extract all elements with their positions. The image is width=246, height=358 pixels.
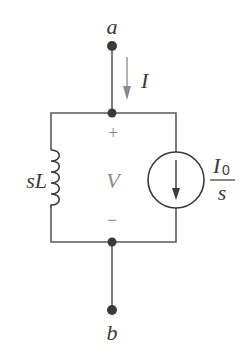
source-denominator: s xyxy=(218,180,227,205)
source-numerator: I xyxy=(212,153,222,178)
current-label: I xyxy=(140,68,150,93)
inductor-icon xyxy=(51,150,59,208)
voltage-label: V xyxy=(106,168,122,193)
current-arrow-icon xyxy=(123,57,131,100)
terminal-b-label: b xyxy=(107,320,118,345)
current-source-icon xyxy=(148,152,204,208)
voltage-plus-sign: + xyxy=(108,123,118,143)
terminal-a-node xyxy=(107,41,117,51)
top-junction-node xyxy=(108,109,117,118)
inductor-label: sL xyxy=(26,168,47,193)
terminal-b-node xyxy=(107,305,117,315)
voltage-minus-sign: − xyxy=(107,210,117,230)
circuit-diagram: a b I + V − sL I 0 s xyxy=(0,0,246,358)
terminal-a-label: a xyxy=(107,14,118,39)
bottom-junction-node xyxy=(108,238,117,247)
source-value-fraction: I 0 s xyxy=(210,153,235,205)
source-numerator-subscript: 0 xyxy=(222,162,230,178)
